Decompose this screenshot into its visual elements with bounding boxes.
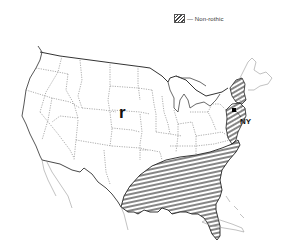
- legend: — Non-rothic: [174, 14, 224, 23]
- baja-coast: [42, 160, 128, 230]
- legend-label: — Non-rothic: [187, 16, 224, 22]
- mexico-border: [42, 160, 121, 207]
- ny-label: NY: [240, 118, 251, 126]
- west-coast: [22, 46, 42, 160]
- southern-nonrhotic-region: [121, 140, 240, 240]
- canada-border: [40, 52, 228, 96]
- new-england-nonrhotic-region: [230, 78, 246, 104]
- hatch-swatch-icon: [174, 14, 185, 23]
- rhotic-label: r: [119, 104, 126, 121]
- bahamas: [226, 196, 244, 218]
